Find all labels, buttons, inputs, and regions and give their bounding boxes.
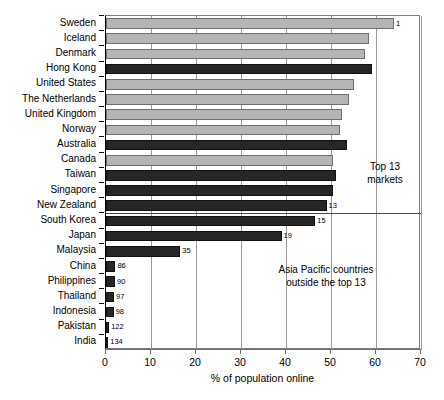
bar-chart-figure: 11315193586909798122134 SwedenIcelandDen… bbox=[0, 0, 444, 400]
x-tick-label-0: 0 bbox=[102, 356, 108, 368]
category-label-south-korea: South Korea bbox=[0, 215, 101, 225]
category-tick bbox=[99, 121, 104, 122]
category-axis-labels: SwedenIcelandDenmarkHong KongUnited Stat… bbox=[0, 15, 101, 349]
bar-hong-kong bbox=[106, 64, 372, 75]
category-tick bbox=[99, 273, 104, 274]
bar-row: 122 bbox=[106, 322, 421, 333]
bar-value-label: 19 bbox=[284, 232, 292, 240]
category-label-china: China bbox=[0, 261, 101, 271]
category-label-taiwan: Taiwan bbox=[0, 169, 101, 179]
bar-singapore bbox=[106, 185, 333, 196]
category-tick bbox=[99, 288, 104, 289]
bar-row bbox=[106, 79, 421, 90]
category-tick bbox=[99, 30, 104, 31]
bar-row: 98 bbox=[106, 307, 421, 318]
x-tick-20 bbox=[195, 349, 196, 354]
category-label-philippines: Philippines bbox=[0, 276, 101, 286]
bar-india bbox=[106, 337, 108, 348]
category-label-thailand: Thailand bbox=[0, 291, 101, 301]
bar-row bbox=[106, 140, 421, 151]
bar-value-label: 134 bbox=[110, 339, 123, 347]
category-label-india: India bbox=[0, 336, 101, 346]
x-tick-label-60: 60 bbox=[369, 356, 381, 368]
bar-value-label: 13 bbox=[329, 202, 337, 210]
bar-row bbox=[106, 94, 421, 105]
bar-united-kingdom bbox=[106, 109, 342, 120]
bar-row bbox=[106, 125, 421, 136]
bar-row bbox=[106, 49, 421, 60]
category-tick bbox=[99, 243, 104, 244]
bar-row bbox=[106, 185, 421, 196]
category-label-sweden: Sweden bbox=[0, 18, 101, 28]
category-tick bbox=[99, 319, 104, 320]
category-tick bbox=[99, 61, 104, 62]
gridline-70 bbox=[421, 16, 422, 350]
category-tick bbox=[99, 152, 104, 153]
bar-pakistan bbox=[106, 322, 109, 333]
bar-value-label: 15 bbox=[317, 217, 325, 225]
category-tick bbox=[99, 76, 104, 77]
bar-row: 97 bbox=[106, 292, 421, 303]
x-tick-40 bbox=[285, 349, 286, 354]
bar-value-label: 122 bbox=[111, 323, 124, 331]
x-tick-0 bbox=[105, 349, 106, 354]
bar-taiwan bbox=[106, 170, 336, 181]
bar-denmark bbox=[106, 49, 365, 60]
bar-thailand bbox=[106, 292, 114, 303]
bar-the-netherlands bbox=[106, 94, 349, 105]
bar-row: 134 bbox=[106, 337, 421, 348]
bar-south-korea bbox=[106, 216, 315, 227]
bar-iceland bbox=[106, 33, 369, 44]
category-label-japan: Japan bbox=[0, 230, 101, 240]
category-tick bbox=[99, 197, 104, 198]
section-divider-line bbox=[106, 213, 421, 214]
x-tick-10 bbox=[150, 349, 151, 354]
bar-value-label: 86 bbox=[117, 263, 125, 271]
category-tick bbox=[99, 45, 104, 46]
category-tick bbox=[99, 106, 104, 107]
category-label-canada: Canada bbox=[0, 154, 101, 164]
bar-china bbox=[106, 261, 115, 272]
category-label-united-kingdom: United Kingdom bbox=[0, 109, 101, 119]
bar-value-label: 98 bbox=[116, 308, 124, 316]
category-label-denmark: Denmark bbox=[0, 48, 101, 58]
x-tick-60 bbox=[375, 349, 376, 354]
bar-united-states bbox=[106, 79, 354, 90]
bar-row bbox=[106, 64, 421, 75]
bar-row: 35 bbox=[106, 246, 421, 257]
category-tick bbox=[99, 228, 104, 229]
x-tick-label-50: 50 bbox=[324, 356, 336, 368]
x-tick-label-20: 20 bbox=[189, 356, 201, 368]
bar-row: 13 bbox=[106, 200, 421, 211]
category-tick bbox=[99, 91, 104, 92]
x-axis-line bbox=[105, 349, 420, 350]
bar-japan bbox=[106, 231, 282, 242]
bar-row bbox=[106, 33, 421, 44]
bar-malaysia bbox=[106, 246, 180, 257]
bar-value-label: 1 bbox=[396, 20, 400, 28]
bar-philippines bbox=[106, 276, 115, 287]
bar-row: 15 bbox=[106, 216, 421, 227]
category-label-iceland: Iceland bbox=[0, 33, 101, 43]
x-tick-70 bbox=[420, 349, 421, 354]
bar-sweden bbox=[106, 18, 394, 29]
category-tick bbox=[99, 182, 104, 183]
category-tick bbox=[99, 303, 104, 304]
bar-australia bbox=[106, 140, 347, 151]
x-tick-label-30: 30 bbox=[234, 356, 246, 368]
category-label-malaysia: Malaysia bbox=[0, 245, 101, 255]
category-tick bbox=[99, 258, 104, 259]
x-tick-label-40: 40 bbox=[279, 356, 291, 368]
x-axis-title: % of population online bbox=[105, 372, 420, 384]
category-label-singapore: Singapore bbox=[0, 185, 101, 195]
category-tick bbox=[99, 136, 104, 137]
category-label-australia: Australia bbox=[0, 139, 101, 149]
category-label-united-states: United States bbox=[0, 78, 101, 88]
bar-value-label: 97 bbox=[116, 293, 124, 301]
bar-row: 1 bbox=[106, 18, 421, 29]
x-tick-50 bbox=[330, 349, 331, 354]
bar-value-label: 35 bbox=[182, 248, 190, 256]
category-tick bbox=[99, 334, 104, 335]
category-label-the-netherlands: The Netherlands bbox=[0, 94, 101, 104]
x-tick-30 bbox=[240, 349, 241, 354]
